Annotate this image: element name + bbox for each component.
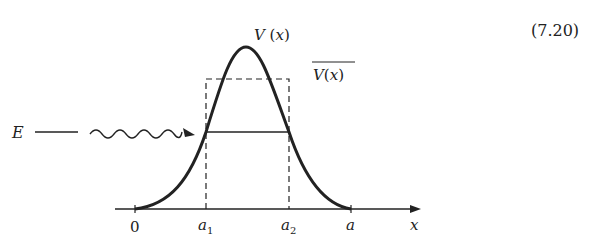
potential-barrier-diagram: E V (x) V(x) 0 a1 a2 a x (7.20) (0, 0, 609, 248)
x-axis-arrow-icon (410, 205, 421, 213)
svg-text:V(x): V(x) (313, 66, 344, 84)
a2-label: a2 (281, 216, 296, 236)
equation-number: (7.20) (531, 21, 579, 40)
average-potential-label: V(x) (312, 62, 355, 84)
a-label: a (346, 216, 355, 234)
incident-wave (90, 130, 182, 138)
origin-label: 0 (130, 218, 140, 236)
energy-label: E (11, 123, 24, 142)
x-axis-label: x (410, 216, 419, 234)
wave-arrow-icon (183, 128, 195, 137)
potential-label: V (x) (254, 26, 290, 44)
a1-label: a1 (198, 216, 213, 236)
